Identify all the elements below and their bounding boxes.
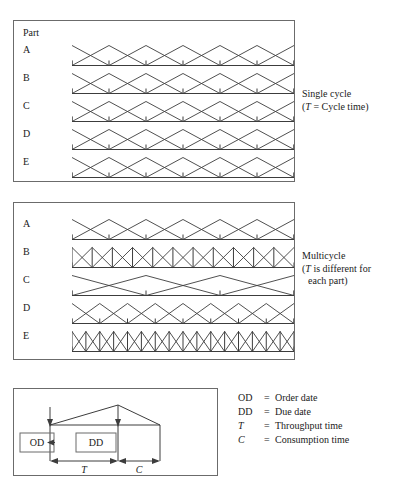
consumption-dimension-label: C — [136, 464, 143, 475]
order-date-box-label: OD — [30, 437, 44, 448]
sawtooth-plot — [72, 71, 294, 97]
part-row-label-e: E — [23, 330, 29, 341]
part-row-plot-b — [72, 71, 294, 97]
part-row-label-d: D — [23, 302, 30, 313]
consumption-arrow-left — [118, 458, 126, 464]
definition-equals: = — [264, 420, 275, 434]
sawtooth-plot — [72, 329, 294, 355]
definition-row: DD=Due date — [238, 406, 349, 420]
multicycle-note-detail-line2: each part) — [302, 275, 398, 288]
consumption-arrow-right — [152, 458, 160, 464]
definition-row: OD=Order date — [238, 392, 349, 406]
multicycle-note-title: Multicycle — [302, 250, 398, 263]
part-row-plot-a — [72, 43, 294, 69]
definition-equals: = — [264, 392, 275, 406]
definition-text: Order date — [275, 392, 349, 406]
definition-symbol: C — [238, 434, 264, 448]
definition-text: Due date — [275, 406, 349, 420]
definitions-body: OD=Order dateDD=Due dateT=Throughput tim… — [238, 392, 349, 448]
part-row-label-b: B — [23, 246, 30, 257]
definition-symbol: DD — [238, 406, 264, 420]
single-cycle-note: Single cycle (T = Cycle time) — [302, 88, 398, 113]
definition-symbol: T — [238, 420, 264, 434]
timing-diagram-svg: OD DD T C — [14, 389, 217, 475]
multicycle-note: Multicycle (T is different for each part… — [302, 250, 398, 288]
definition-text: Consumption time — [275, 434, 349, 448]
definition-equals: = — [264, 406, 275, 420]
multi-note-text: is different for — [311, 263, 371, 274]
single-note-text: = Cycle time) — [311, 101, 369, 112]
part-column-header: Part — [23, 27, 39, 38]
throughput-arrow-right — [110, 458, 118, 464]
sawtooth-plot — [72, 273, 294, 299]
multicycle-panel: ABCDE — [13, 202, 295, 360]
part-row-label-c: C — [23, 274, 30, 285]
sawtooth-plot — [72, 155, 294, 181]
definition-row: C=Consumption time — [238, 434, 349, 448]
inventory-triangle — [50, 405, 160, 425]
due-date-box-label: DD — [89, 437, 103, 448]
sawtooth-plot — [72, 99, 294, 125]
part-row-label-b: B — [23, 72, 30, 83]
part-row-plot-a — [72, 217, 294, 243]
part-row-label-d: D — [23, 128, 30, 139]
sawtooth-plot — [72, 43, 294, 69]
part-row-label-a: A — [23, 44, 30, 55]
part-row-plot-b — [72, 245, 294, 271]
sawtooth-plot — [72, 217, 294, 243]
part-row-plot-e — [72, 329, 294, 355]
single-cycle-note-detail: (T = Cycle time) — [302, 101, 398, 114]
single-cycle-panel: Part ABCDE — [13, 20, 295, 182]
multicycle-note-detail: (T is different for — [302, 263, 398, 276]
definitions-table: OD=Order dateDD=Due dateT=Throughput tim… — [238, 392, 349, 448]
sawtooth-plot — [72, 245, 294, 271]
part-row-label-a: A — [23, 218, 30, 229]
part-row-label-c: C — [23, 100, 30, 111]
timing-diagram-panel: OD DD T C — [13, 388, 218, 476]
definition-symbol: OD — [238, 392, 264, 406]
part-row-plot-c — [72, 273, 294, 299]
part-row-plot-e — [72, 155, 294, 181]
sawtooth-plot — [72, 301, 294, 327]
definition-row: T=Throughput time — [238, 420, 349, 434]
part-row-plot-c — [72, 99, 294, 125]
throughput-dimension-label: T — [81, 464, 88, 475]
part-row-plot-d — [72, 127, 294, 153]
part-row-label-e: E — [23, 156, 29, 167]
definition-text: Throughput time — [275, 420, 349, 434]
single-cycle-note-title: Single cycle — [302, 88, 398, 101]
throughput-arrow-left — [50, 458, 58, 464]
sawtooth-plot — [72, 127, 294, 153]
part-row-plot-d — [72, 301, 294, 327]
definition-equals: = — [264, 434, 275, 448]
